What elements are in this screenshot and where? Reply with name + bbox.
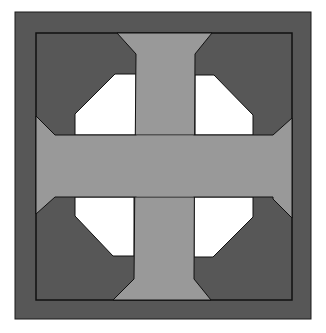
- cross-center: [137, 136, 194, 197]
- quilt-block-figure: [0, 0, 326, 333]
